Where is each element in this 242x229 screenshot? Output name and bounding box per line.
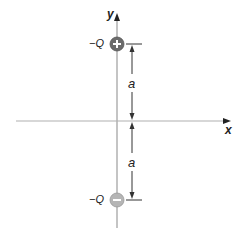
charge-top-label: −Q: [89, 38, 104, 49]
x-axis-label: x: [225, 124, 232, 136]
distance-label-upper: a: [128, 76, 135, 91]
charge-diagram: y x −Q −Q a a: [0, 0, 242, 229]
y-axis-label: y: [107, 8, 114, 20]
charge-bottom: [110, 193, 124, 207]
distance-label-lower: a: [128, 155, 135, 170]
dimension-markers: [126, 44, 142, 200]
diagram-canvas: [0, 0, 242, 229]
x-axis: [16, 118, 231, 124]
arrow-down-icon: [130, 113, 135, 120]
arrow-up-icon: [130, 122, 135, 129]
arrow-up-icon: [130, 45, 135, 52]
arrow-down-icon: [130, 192, 135, 199]
charge-top: [110, 37, 124, 51]
y-axis-arrowhead-icon: [114, 13, 120, 21]
charge-bottom-label: −Q: [89, 194, 104, 205]
